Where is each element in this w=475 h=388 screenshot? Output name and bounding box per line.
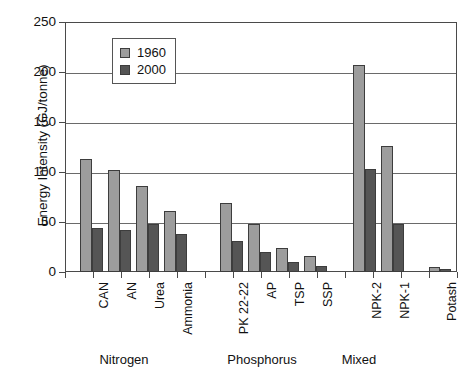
bar-pk-22-22-2000 [232,241,243,272]
x-tick-mark-13 [429,272,430,278]
legend-entry-2000: 2000 [120,61,166,78]
bar-urea-2000 [148,224,159,272]
bar-potash-2000 [440,269,451,272]
bar-potash-1960 [429,267,440,272]
bar-ammonia-2000 [176,234,187,272]
group-label-phosphorus: Phosphorus [227,352,296,367]
x-tick-mark-2 [121,272,122,278]
category-label-ammonia: Ammonia [181,282,195,335]
x-tick-mark-3 [149,272,150,278]
bar-ammonia-1960 [164,211,175,272]
y-tick-200: 200 [22,65,56,79]
y-tick-100: 100 [22,165,56,179]
bar-can-2000 [92,228,103,272]
category-label-urea: Urea [153,282,167,309]
x-tick-mark-6 [233,272,234,278]
y-tick-50: 50 [22,215,56,229]
legend-label-1960: 1960 [137,46,166,59]
bar-npk-2-1960 [353,65,364,272]
bar-an-2000 [120,230,131,272]
legend-swatch-2000-icon [120,65,130,75]
bar-ssp-1960 [304,256,315,272]
category-label-tsp: TSP [293,282,307,306]
y-tick-150: 150 [22,115,56,129]
x-tick-mark-7 [261,272,262,278]
bar-an-1960 [108,170,119,272]
legend-label-2000: 2000 [137,63,166,76]
x-tick-mark-11 [373,272,374,278]
bar-tsp-1960 [276,248,287,272]
group-label-nitrogen: Nitrogen [99,352,148,367]
x-tick-mark-0 [65,272,66,278]
bar-tsp-2000 [288,262,299,272]
bar-can-1960 [80,159,91,272]
category-label-ssp: SSP [321,282,335,307]
bar-ap-2000 [260,252,271,272]
legend-swatch-1960-icon [120,48,130,58]
y-tick-250: 250 [22,15,56,29]
y-tick-0: 0 [22,265,56,279]
category-label-potash: Potash [445,282,459,321]
bar-urea-1960 [136,186,147,272]
category-label-pk-22-22: PK 22-22 [237,282,251,334]
category-label-npk-1: NPK-1 [398,282,412,319]
x-tick-mark-1 [93,272,94,278]
bar-npk-1-2000 [393,224,404,272]
group-label-mixed: Mixed [342,352,377,367]
legend-entry-1960: 1960 [120,44,166,61]
x-tick-mark-8 [289,272,290,278]
x-tick-mark-12 [401,272,402,278]
bar-ap-1960 [248,224,259,272]
category-label-npk-2: NPK-2 [370,282,384,319]
bar-pk-22-22-1960 [220,203,231,272]
x-tick-mark-9 [317,272,318,278]
category-label-can: CAN [97,282,111,308]
x-tick-mark-4 [177,272,178,278]
bar-npk-2-2000 [365,169,376,272]
x-tick-mark-14 [457,272,458,278]
legend: 1960 2000 [112,38,176,84]
y-axis-tick-labels: 250 200 150 100 50 0 [20,0,56,388]
category-label-an: AN [125,282,139,299]
x-tick-mark-10 [345,272,346,278]
x-tick-mark-5 [205,272,206,278]
category-label-ap: AP [265,282,279,299]
energy-intensity-bar-chart: Energy Intensity (GJ/tonne) 250 200 150 … [0,0,475,388]
bar-npk-1-1960 [381,146,392,272]
